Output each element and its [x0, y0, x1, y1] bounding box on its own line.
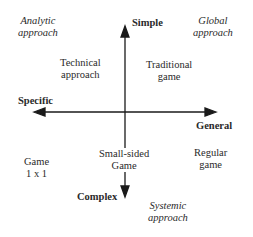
axis-label-simple: Simple — [132, 17, 163, 29]
quadrant-regular-game: Regular game — [194, 147, 227, 171]
arrow-up-icon — [121, 26, 129, 37]
arrow-right-icon — [205, 108, 216, 116]
quadrant-traditional-game: Traditional game — [146, 59, 192, 83]
arrow-down-icon — [121, 186, 129, 197]
axis-label-complex: Complex — [77, 191, 117, 203]
corner-global-approach: Global approach — [193, 15, 233, 39]
corner-systemic-approach: Systemic approach — [148, 200, 188, 224]
axis-label-specific: Specific — [18, 95, 53, 107]
arrow-left-icon — [34, 108, 45, 116]
quadrant-small-sided-game: Small-sided Game — [99, 148, 149, 172]
axis-label-general: General — [196, 120, 232, 132]
quadrant-game-1x1: Game 1 x 1 — [24, 156, 49, 180]
corner-analytic-approach: Analytic approach — [18, 15, 58, 39]
quadrant-technical-approach: Technical approach — [60, 57, 101, 81]
